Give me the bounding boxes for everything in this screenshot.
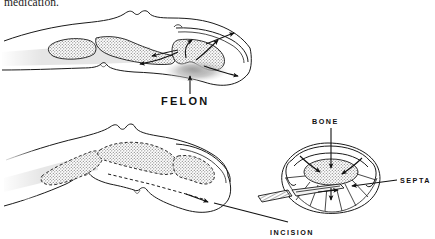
panel-incision-lateral: INCISION	[0, 117, 431, 237]
nail-fold	[174, 25, 182, 27]
incision-line-arrow	[186, 194, 208, 202]
middle-phalanx-bone	[48, 39, 96, 60]
label-bone: BONE	[312, 117, 339, 126]
label-incision: INCISION	[270, 228, 314, 237]
figure-canvas: FELON	[0, 0, 435, 239]
pulp-cross-section	[258, 143, 380, 213]
felon-abscess-core	[175, 63, 209, 76]
finger2-middle-phalanx	[98, 142, 179, 174]
medical-figure: medication.	[0, 0, 435, 239]
incision-leader-finger	[214, 203, 288, 222]
label-felon: FELON	[161, 95, 209, 107]
finger2-distal-phalanx	[173, 155, 215, 184]
label-septa: SEPTA	[400, 176, 431, 185]
panel-felon-lateral-section: FELON	[0, 11, 251, 107]
